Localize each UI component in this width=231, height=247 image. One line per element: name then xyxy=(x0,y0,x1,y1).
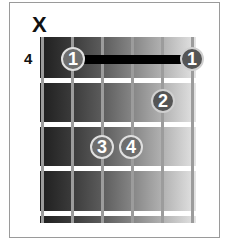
start-fret-label: 4 xyxy=(24,51,32,67)
finger-marker-4: 4 xyxy=(119,135,143,159)
string-3 xyxy=(131,37,134,223)
fret-line-3 xyxy=(40,166,196,171)
finger-marker-1-string5: 1 xyxy=(61,47,85,71)
fret-line-1 xyxy=(40,78,196,83)
string-2 xyxy=(161,37,164,223)
string-6 xyxy=(41,37,44,223)
string-4 xyxy=(101,37,104,223)
fret-line-2 xyxy=(40,122,196,127)
finger-marker-1-string1: 1 xyxy=(180,47,204,71)
finger-marker-3: 3 xyxy=(90,135,114,159)
muted-string-marker: X xyxy=(32,14,47,36)
barre-bar xyxy=(78,55,188,64)
fret-line-4 xyxy=(40,211,196,216)
finger-marker-2: 2 xyxy=(151,89,175,113)
